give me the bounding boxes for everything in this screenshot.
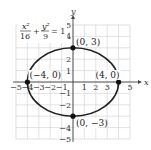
y-tick-label: −4 xyxy=(59,124,71,133)
equation-rhs: = 1 xyxy=(51,27,65,36)
x-tick-label: −3 xyxy=(33,83,45,92)
data-point-label: (0, 3) xyxy=(76,37,100,47)
x-axis-arrow xyxy=(138,80,142,84)
data-point xyxy=(116,79,121,84)
equation-x-denominator: 16 xyxy=(20,32,30,41)
ellipse-chart: xy −5−4−3−2−112355421−1−2−4−5 (0, 3)(0, … xyxy=(0,0,151,150)
x-tick-label: 3 xyxy=(105,83,110,92)
y-tick-label: 2 xyxy=(66,55,71,64)
equation-label: x² 16 + y² 9 = 1 xyxy=(17,21,67,43)
data-point-label: (−4, 0) xyxy=(29,70,61,80)
y-tick-label: −5 xyxy=(59,135,71,144)
x-tick-label: −5 xyxy=(10,83,22,92)
data-point-label: (4, 0) xyxy=(95,70,119,80)
data-point-label: (0, −3) xyxy=(76,118,108,128)
y-tick-label: −2 xyxy=(59,101,71,110)
x-tick-label: −2 xyxy=(44,83,56,92)
y-axis-label: y xyxy=(70,7,76,16)
x-tick-label: 1 xyxy=(82,83,87,92)
x-tick-label: 2 xyxy=(93,83,98,92)
data-point xyxy=(70,114,75,119)
x-tick-label: 5 xyxy=(127,83,132,92)
equation-x-numerator: x² xyxy=(22,22,30,31)
equation-y-numerator: y² xyxy=(41,22,50,31)
equation-plus: + xyxy=(33,27,40,36)
equation-y-denominator: 9 xyxy=(43,32,48,41)
data-point xyxy=(25,79,30,84)
y-tick-label: 1 xyxy=(66,67,71,76)
y-tick-label: −1 xyxy=(59,89,71,98)
data-point xyxy=(70,45,75,50)
x-axis-label: x xyxy=(144,78,149,87)
